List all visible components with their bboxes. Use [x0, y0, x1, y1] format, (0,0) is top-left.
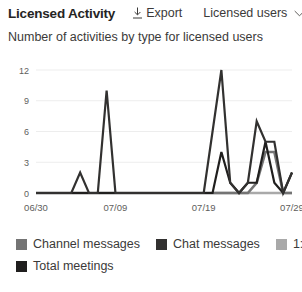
- chevron-down-icon: [287, 10, 302, 17]
- chart-subtitle: Number of activities by type for license…: [8, 30, 263, 44]
- legend-swatch-one-on-one-calls: [276, 239, 287, 250]
- x-axis-tick-label: 07/19: [192, 202, 216, 213]
- x-axis-tick-label: 07/29: [280, 202, 302, 213]
- licensed-activity-card: Licensed Activity Export Licensed users …: [0, 0, 302, 292]
- legend-label-chat-messages: Chat messages: [173, 237, 260, 251]
- x-axis-tick-label: 07/09: [104, 202, 128, 213]
- legend-item-total-meetings[interactable]: Total meetings: [16, 259, 114, 273]
- legend-swatch-chat-messages: [156, 239, 167, 250]
- legend-label-channel-messages: Channel messages: [33, 237, 140, 251]
- chart-legend: Channel messages Chat messages 1:1 calls…: [16, 233, 302, 277]
- activity-line-chart: 03691206/3007/0907/1907/29: [0, 55, 302, 220]
- page-title: Licensed Activity: [8, 6, 115, 21]
- export-button[interactable]: Export: [132, 6, 182, 20]
- y-axis-tick-label: 0: [24, 189, 29, 199]
- legend-label-total-meetings: Total meetings: [33, 259, 114, 273]
- legend-swatch-channel-messages: [16, 239, 27, 250]
- card-header: Licensed Activity Export Licensed users: [0, 0, 302, 26]
- y-axis-tick-label: 12: [19, 66, 29, 76]
- legend-item-chat-messages[interactable]: Chat messages: [156, 237, 260, 251]
- dropdown-value: Licensed users: [203, 6, 287, 20]
- x-axis-tick-label: 06/30: [24, 202, 48, 213]
- legend-swatch-total-meetings: [16, 261, 27, 272]
- legend-item-one-on-one-calls[interactable]: 1:1 calls: [276, 237, 302, 251]
- y-axis-tick-label: 3: [24, 158, 29, 168]
- legend-label-one-on-one-calls: 1:1 calls: [293, 237, 302, 251]
- legend-row-1: Channel messages Chat messages 1:1 calls: [16, 233, 302, 255]
- legend-row-2: Total meetings: [16, 255, 302, 277]
- chart-svg: 03691206/3007/0907/1907/29: [0, 55, 302, 220]
- legend-item-channel-messages[interactable]: Channel messages: [16, 237, 140, 251]
- y-axis-tick-label: 9: [24, 96, 29, 106]
- download-icon: [132, 7, 146, 19]
- y-axis-tick-label: 6: [24, 127, 29, 137]
- export-label: Export: [146, 6, 182, 20]
- licensed-users-dropdown[interactable]: Licensed users: [203, 6, 302, 20]
